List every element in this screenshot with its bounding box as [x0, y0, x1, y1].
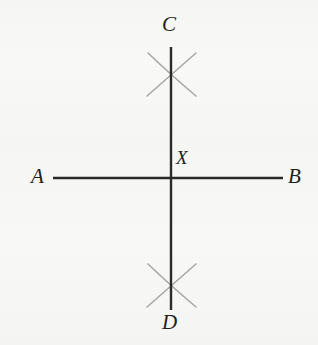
figure-canvas — [0, 0, 318, 345]
point-label-b: B — [288, 166, 301, 187]
point-label-a: A — [31, 166, 44, 187]
point-label-c: C — [162, 14, 176, 35]
point-label-d: D — [162, 312, 177, 333]
geometry-figure: C D A B X — [0, 0, 318, 345]
point-label-x: X — [176, 148, 188, 167]
